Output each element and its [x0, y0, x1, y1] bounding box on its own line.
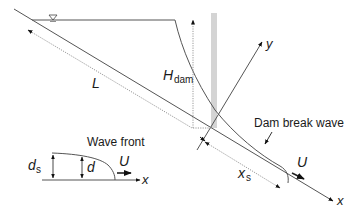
dam-break-wave-pointer [265, 132, 272, 144]
svg-text:dam: dam [174, 74, 193, 85]
U-main-label: U [297, 154, 308, 170]
d-label: d [87, 159, 96, 175]
dam-break-wave-label: Dam break wave [254, 116, 344, 130]
free-surface-icon [49, 15, 57, 22]
inset-wave-front-profile [52, 153, 115, 180]
inset-x-label: x [141, 172, 149, 187]
bed-line-x-axis [14, 9, 333, 201]
ds-label: d s [28, 157, 41, 175]
xs-label: x s [237, 165, 251, 183]
U-velocity-arrow [292, 173, 304, 179]
svg-text:s: s [36, 164, 41, 175]
L-label: L [92, 75, 100, 91]
svg-text:H: H [163, 67, 174, 83]
svg-text:x: x [237, 165, 246, 181]
x-axis-label: x [336, 193, 344, 208]
svg-text:s: s [246, 172, 251, 183]
H-dam-label: H dam [163, 67, 193, 85]
dam-break-diagram: y x L H dam x s Dam break wave U Wave fr… [0, 0, 354, 216]
inset-U-label: U [119, 153, 130, 169]
y-axis-label: y [265, 36, 274, 51]
wave-front-title: Wave front [87, 135, 145, 149]
